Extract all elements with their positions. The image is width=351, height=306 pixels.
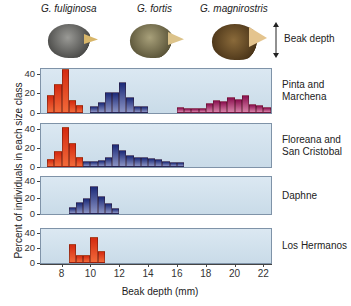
histogram-bar	[213, 100, 220, 113]
y-tick-mark	[37, 74, 40, 75]
histogram-bar	[134, 106, 141, 113]
y-tick-mark	[37, 148, 40, 149]
histogram-bar	[90, 106, 97, 113]
histogram-bar	[141, 157, 148, 167]
x-axis-line	[40, 264, 272, 265]
x-tick-label: 8	[52, 268, 72, 279]
histogram-bar	[69, 244, 76, 263]
y-tick-mark	[37, 198, 40, 199]
x-tick-mark	[177, 264, 178, 267]
histogram-bar	[119, 82, 126, 113]
histogram-bar	[83, 198, 90, 214]
histogram-bar	[76, 255, 83, 263]
histogram-bar	[242, 95, 249, 113]
x-tick-mark	[206, 264, 207, 267]
histogram-bar	[235, 99, 242, 113]
histogram-bar	[47, 95, 54, 113]
histogram-bar	[90, 186, 97, 214]
histogram-bar	[62, 69, 69, 113]
histogram-bar	[54, 151, 61, 167]
y-tick-mark	[37, 113, 40, 114]
island-label: Floreana andSan Cristobal	[282, 134, 342, 158]
histogram-bar	[98, 196, 105, 214]
x-tick-label: 10	[80, 268, 100, 279]
histogram-bar	[177, 162, 184, 167]
histogram-bar	[148, 158, 155, 167]
histogram-bar	[170, 162, 177, 167]
x-tick-label: 12	[109, 268, 129, 279]
x-tick-label: 18	[196, 268, 216, 279]
histogram-bar	[155, 159, 162, 167]
y-tick-label: 0	[21, 107, 35, 118]
histogram-bar	[90, 237, 97, 263]
histogram-bar	[112, 92, 119, 114]
y-tick-mark	[37, 181, 40, 182]
histogram-bar	[83, 255, 90, 263]
island-label: Pinta andMarchena	[282, 79, 326, 103]
y-tick-label: 40	[21, 68, 35, 79]
histogram-panel	[40, 176, 272, 215]
histogram-bar	[141, 106, 148, 113]
island-label: Daphne	[282, 190, 317, 202]
histogram-bar	[76, 105, 83, 113]
histogram-bar	[83, 161, 90, 167]
histogram-bar	[112, 208, 119, 214]
y-tick-label: 20	[21, 242, 35, 253]
histogram-bar	[69, 100, 76, 113]
histogram-bar	[263, 107, 270, 113]
x-tick-label: 22	[253, 268, 273, 279]
x-tick-label: 16	[167, 268, 187, 279]
y-tick-mark	[37, 129, 40, 130]
histogram-bar	[256, 105, 263, 113]
y-tick-mark	[37, 93, 40, 94]
species-label-magnirostris: G. magnirostris	[200, 3, 268, 14]
histogram-bar	[249, 104, 256, 113]
histogram-bar	[105, 203, 112, 215]
species-label-fuliginosa: G. fuliginosa	[41, 3, 97, 14]
histogram-bar	[98, 102, 105, 113]
histogram-bar	[199, 108, 206, 113]
y-tick-label: 20	[21, 192, 35, 203]
histogram-bar	[90, 161, 97, 167]
histogram-bar	[227, 97, 234, 113]
x-tick-mark	[148, 264, 149, 267]
histogram-bar	[76, 157, 83, 167]
y-tick-label: 0	[21, 257, 35, 268]
island-label: Los Hermanos	[282, 240, 347, 252]
y-tick-mark	[37, 167, 40, 168]
y-tick-label: 0	[21, 208, 35, 219]
histogram-bar	[62, 127, 69, 167]
histogram-bar	[69, 207, 76, 214]
beak-depth-label: Beak depth	[284, 33, 335, 44]
beak-depth-arrow-icon	[271, 22, 281, 58]
histogram-panel	[40, 68, 272, 114]
histogram-bar	[126, 155, 133, 167]
histogram-bar	[206, 103, 213, 113]
histogram-panel	[40, 123, 272, 168]
x-tick-mark	[90, 264, 91, 267]
beak-fortis-icon	[168, 32, 184, 45]
x-tick-label: 20	[225, 268, 245, 279]
x-tick-mark	[119, 264, 120, 267]
y-tick-label: 20	[21, 142, 35, 153]
histogram-bar	[134, 157, 141, 167]
y-tick-label: 40	[21, 175, 35, 186]
species-label-fortis: G. fortis	[137, 3, 172, 14]
histogram-bar	[76, 202, 83, 214]
histogram-bar	[105, 92, 112, 114]
x-tick-label: 14	[138, 268, 158, 279]
histogram-panel	[40, 228, 272, 264]
x-tick-mark	[263, 264, 264, 267]
y-tick-mark	[37, 214, 40, 215]
histogram-bar	[162, 161, 169, 167]
histogram-bar	[112, 144, 119, 167]
y-tick-label: 40	[21, 227, 35, 238]
histogram-bar	[184, 108, 191, 113]
histogram-bar	[126, 97, 133, 113]
histogram-bar	[47, 159, 54, 167]
histogram-bar	[191, 108, 198, 113]
y-tick-mark	[37, 233, 40, 234]
histogram-bar	[105, 157, 112, 168]
y-tick-label: 0	[21, 161, 35, 172]
x-axis-label: Beak depth (mm)	[100, 286, 220, 297]
